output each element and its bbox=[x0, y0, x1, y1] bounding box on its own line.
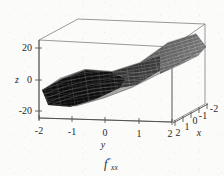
x-tick-label: 2 bbox=[176, 127, 181, 138]
z-axis-label: z bbox=[14, 74, 19, 85]
x-axis: 2 1 0 -1 -2 x bbox=[173, 103, 218, 138]
caption-subscript: xx bbox=[110, 163, 118, 172]
y-axis: -2 -1 0 1 2 y bbox=[35, 115, 173, 150]
y-tick-label: -2 bbox=[35, 125, 43, 136]
z-tick-label: 0 bbox=[27, 74, 32, 85]
figure-container: 20 0 -20 z -2 -1 0 1 2 y bbox=[0, 0, 224, 176]
y-tick-label: -1 bbox=[68, 126, 76, 137]
x-tick-label: -2 bbox=[210, 103, 218, 114]
y-tick-label: 0 bbox=[103, 127, 108, 138]
y-tick-label: 1 bbox=[137, 128, 142, 139]
x-axis-label: x bbox=[196, 127, 202, 138]
x-tick-label: 1 bbox=[185, 121, 190, 132]
y-axis-label: y bbox=[100, 139, 106, 150]
figure-caption: f″xx bbox=[104, 156, 118, 172]
z-tick-label: -20 bbox=[19, 105, 32, 116]
surface-mesh bbox=[30, 25, 216, 120]
z-tick-label: 20 bbox=[22, 42, 32, 53]
x-tick-label: 0 bbox=[193, 115, 198, 126]
z-axis: 20 0 -20 z bbox=[14, 40, 42, 120]
x-tick-label: -1 bbox=[199, 110, 207, 121]
svg-text:f″xx: f″xx bbox=[104, 156, 118, 172]
surface-plot-3d: 20 0 -20 z -2 -1 0 1 2 y bbox=[0, 0, 224, 176]
y-tick-label: 2 bbox=[168, 128, 173, 139]
